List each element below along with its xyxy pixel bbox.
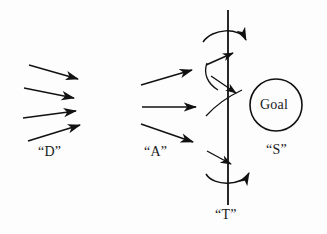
diagram-vector-graphic [0, 0, 327, 234]
a-arrow-3 [141, 124, 193, 142]
d-arrow-1 [29, 65, 78, 79]
a-arrow-group [141, 70, 196, 142]
transition-arrow-up [206, 53, 233, 65]
a-group-label: “A” [144, 145, 167, 159]
a-arrow-1 [141, 70, 192, 85]
t-axis-group [203, 10, 249, 205]
transition-arrow-group [206, 53, 242, 164]
t-axis-label: “T” [215, 208, 237, 222]
goal-circle-label: Goal [260, 98, 288, 112]
d-arrow-4 [28, 125, 80, 141]
diagram-canvas: Goal “D” “A” “S” “T” [0, 0, 327, 234]
transition-curve-mid [206, 90, 242, 116]
d-arrow-3 [23, 111, 76, 118]
d-group-label: “D” [38, 145, 61, 159]
d-arrow-2 [24, 88, 74, 98]
s-group-label: “S” [266, 143, 287, 157]
t-top-arc-arrow [203, 31, 246, 42]
transition-arrow-cross [211, 76, 236, 93]
d-arrow-group [23, 65, 80, 141]
